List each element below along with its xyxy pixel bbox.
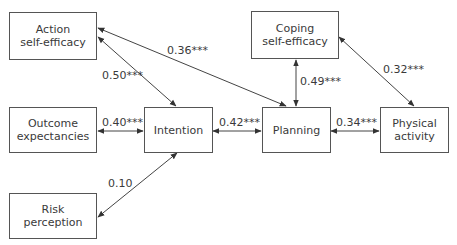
coef-coping-planning: 0.49*** — [300, 75, 341, 88]
node-label: Risk — [24, 203, 83, 216]
node-label: Physical — [392, 117, 437, 130]
node-label: expectancies — [17, 130, 90, 143]
coef-planning-physical: 0.34*** — [336, 116, 377, 129]
node-risk-perception: Riskperception — [9, 193, 97, 239]
node-label: Planning — [273, 124, 320, 137]
coef-intention-planning: 0.42*** — [219, 116, 260, 129]
node-action-self-efficacy: Actionself-efficacy — [9, 12, 97, 60]
coef-coping-physical: 0.32*** — [383, 63, 424, 76]
node-outcome-expectancies: Outcomeexpectancies — [9, 107, 97, 153]
coef-outcome-intention: 0.40*** — [102, 116, 143, 129]
node-coping-self-efficacy: Copingself-efficacy — [251, 11, 339, 59]
node-intention: Intention — [144, 107, 213, 153]
node-physical-activity: Physicalactivity — [380, 107, 449, 153]
node-label: Outcome — [17, 117, 90, 130]
node-label: self-efficacy — [262, 35, 328, 48]
node-planning: Planning — [262, 107, 331, 153]
coef-risk-intention: 0.10 — [108, 177, 133, 190]
node-label: activity — [392, 130, 437, 143]
coef-action-intention: 0.50*** — [102, 69, 143, 82]
coef-action-planning: 0.36*** — [167, 44, 208, 57]
node-label: Intention — [154, 124, 203, 137]
node-label: perception — [24, 216, 83, 229]
node-label: self-efficacy — [20, 36, 86, 49]
node-label: Coping — [262, 22, 328, 35]
node-label: Action — [20, 23, 86, 36]
